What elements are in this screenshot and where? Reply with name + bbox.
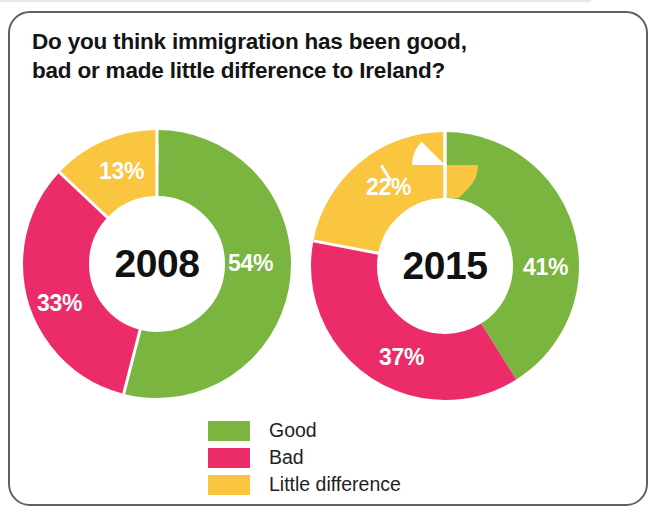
donut-2008-label-good: 54% (228, 250, 273, 277)
legend-swatch-good (208, 421, 250, 441)
donut-2008-label-little: 13% (99, 158, 144, 185)
page-title-line-1: Do you think immigration has been good, (32, 28, 552, 57)
chart-legend: Good Bad Little difference (208, 417, 401, 498)
legend-label-bad: Bad (269, 446, 304, 469)
legend-swatch-bad (208, 448, 250, 468)
donut-chart-2008: 2008 54% 33% 13% (23, 130, 291, 398)
page-title-line-2: bad or made little difference to Ireland… (32, 57, 552, 86)
legend-item-bad: Bad (208, 444, 401, 471)
legend-label-good: Good (269, 419, 317, 442)
donut-2008-label-bad: 33% (37, 290, 82, 317)
donut-2015-label-little: 22% (366, 174, 411, 201)
legend-swatch-little-difference (208, 475, 250, 495)
donut-2015-label-good: 41% (523, 254, 568, 281)
legend-label-little-difference: Little difference (269, 473, 401, 496)
legend-item-little-difference: Little difference (208, 471, 401, 498)
legend-item-good: Good (208, 417, 401, 444)
donut-2015-label-bad: 37% (379, 344, 424, 371)
donut-chart-2015: 2015 41% 37% 22% (311, 132, 579, 400)
page-title: Do you think immigration has been good, … (32, 28, 552, 86)
